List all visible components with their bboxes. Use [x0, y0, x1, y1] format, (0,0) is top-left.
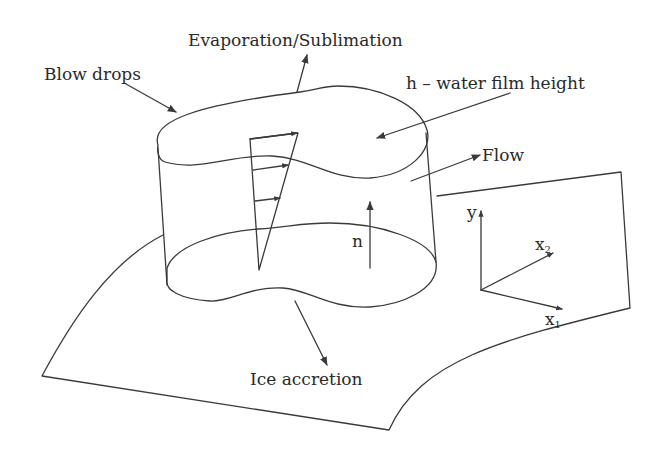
ice-accretion-arrow — [295, 301, 327, 365]
evaporation-arrow — [297, 55, 307, 92]
coordinate-axes: y x2 x1 — [466, 202, 562, 330]
evaporation-label: Evaporation/Sublimation — [188, 30, 403, 50]
velocity-profile — [250, 133, 298, 270]
normal-vector: n — [352, 202, 370, 268]
substrate-surface — [42, 172, 630, 430]
blow-drops-label: Blow drops — [44, 64, 141, 84]
water-film-volume — [157, 86, 436, 307]
x1-axis-label: x1 — [545, 309, 561, 330]
normal-label: n — [352, 231, 363, 251]
water-film-diagram: n Evaporation/Sublimation Blow drops h –… — [0, 0, 664, 451]
ice-accretion-label: Ice accretion — [250, 369, 363, 389]
flow-label: Flow — [482, 145, 524, 165]
blow-drops-arrow — [126, 84, 176, 112]
x2-axis-label: x2 — [535, 234, 551, 255]
film-height-label: h – water film height — [406, 73, 585, 93]
x2-axis-arrow — [481, 253, 553, 290]
flow-arrow — [411, 155, 480, 181]
x1-axis-arrow — [481, 290, 562, 309]
y-axis-label: y — [466, 202, 477, 222]
